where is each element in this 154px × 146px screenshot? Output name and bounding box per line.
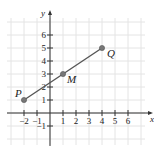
point-p [21, 97, 26, 102]
x-axis-label: x [149, 114, 154, 124]
y-tick-label: 3 [42, 69, 47, 79]
y-tick-label: −1 [36, 121, 46, 131]
point-label-m: M [66, 73, 77, 85]
x-tick-label: 6 [126, 116, 131, 126]
y-tick-label: 6 [42, 30, 47, 40]
point-q [99, 45, 104, 50]
y-axis-arrow [48, 10, 52, 15]
point-label-q: Q [107, 47, 115, 59]
x-tick-label: 5 [113, 116, 118, 126]
x-tick-label: −2 [19, 116, 29, 126]
y-tick-label: 4 [42, 56, 47, 66]
x-tick-label: 2 [74, 116, 79, 126]
y-axis-label: y [40, 8, 45, 18]
x-tick-label: 4 [100, 116, 105, 126]
y-tick-label: 1 [42, 95, 47, 105]
point-m [60, 71, 65, 76]
y-tick-label: 5 [42, 43, 47, 53]
point-label-p: P [14, 87, 22, 99]
x-tick-label: 1 [61, 116, 66, 126]
x-tick-label: 3 [87, 116, 92, 126]
coordinate-plot: −2−1123456−1123456 PMQ x y [0, 0, 154, 146]
